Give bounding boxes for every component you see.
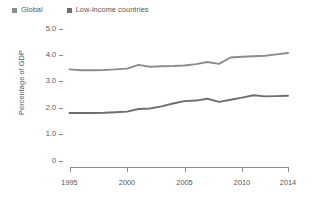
series-line-global bbox=[70, 53, 289, 70]
plot-area bbox=[0, 0, 320, 201]
chart-container: Global Low-income countries Percentage o… bbox=[0, 0, 320, 201]
series-line-low-income-countries bbox=[70, 95, 289, 113]
